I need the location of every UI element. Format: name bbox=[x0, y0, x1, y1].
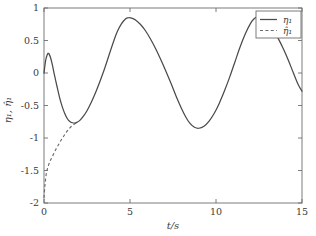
data-series-group bbox=[44, 16, 302, 197]
x-axis-label: t/s bbox=[167, 220, 180, 231]
y-tick-label: 1 bbox=[33, 2, 39, 13]
x-tick-label: 0 bbox=[41, 206, 47, 217]
y-tick-label: 0.5 bbox=[24, 35, 39, 46]
legend-background bbox=[256, 11, 301, 38]
x-tick-label: 15 bbox=[296, 206, 308, 217]
x-tick-label: 5 bbox=[127, 206, 133, 217]
x-tick-label: 10 bbox=[210, 206, 222, 217]
x-axis-tick-labels: 051015 bbox=[41, 206, 308, 217]
y-axis-label: η₁, η̂₁ bbox=[2, 97, 13, 123]
y-tick-label: 0 bbox=[33, 67, 39, 78]
y-tick-label: -2 bbox=[30, 197, 39, 208]
y-tick-label: -1 bbox=[30, 132, 39, 143]
legend-label-eta1: η₁ bbox=[283, 15, 292, 25]
legend-label-eta1-hat: η̂₁ bbox=[283, 26, 292, 36]
y-tick-label: -0.5 bbox=[21, 100, 39, 111]
line-chart: 10.50-0.5-1-1.5-2 051015 t/s η₁, η̂₁ η₁ … bbox=[0, 0, 316, 236]
y-tick-label: -1.5 bbox=[21, 165, 39, 176]
chart-legend[interactable]: η₁ η̂₁ bbox=[256, 11, 301, 38]
figure-container: 10.50-0.5-1-1.5-2 051015 t/s η₁, η̂₁ η₁ … bbox=[0, 0, 316, 236]
y-axis-tick-labels: 10.50-0.5-1-1.5-2 bbox=[21, 2, 39, 208]
series-line-2 bbox=[44, 123, 77, 198]
